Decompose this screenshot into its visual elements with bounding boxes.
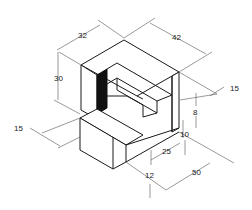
dim-label-30: 30: [54, 75, 63, 83]
dim-label-15-right: 15: [230, 85, 239, 93]
dim-label-50: 50: [192, 169, 201, 177]
dim-label-15-left: 15: [14, 125, 23, 133]
dim-label-32: 32: [78, 32, 87, 40]
dim-label-12: 12: [145, 172, 154, 180]
dim-label-42: 42: [172, 34, 181, 42]
dim-label-25: 25: [162, 148, 171, 156]
dim-label-8: 8: [193, 109, 197, 117]
isometric-drawing: [0, 0, 252, 210]
dim-label-10: 10: [180, 131, 189, 139]
